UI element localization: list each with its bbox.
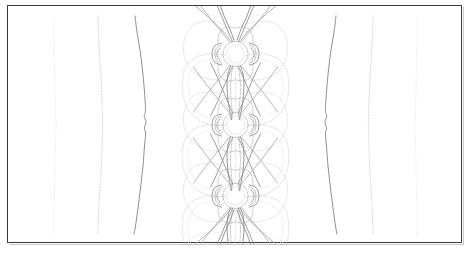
- figure-root: [0, 0, 474, 254]
- contour-line: [54, 16, 56, 234]
- contour-line: [239, 209, 261, 245]
- contour-line: [194, 137, 230, 183]
- frame-shadow-bottom: [9, 244, 464, 245]
- contour-line: [242, 138, 278, 184]
- contour-line: [98, 16, 103, 234]
- contour-line: [249, 130, 284, 190]
- contour-line: [227, 116, 245, 134]
- contour-line: [242, 67, 278, 113]
- central-bowtie-contour-group: [182, 6, 288, 244]
- contour-line: [242, 137, 278, 183]
- outer-contour-group: [54, 16, 417, 234]
- contour-line: [239, 6, 261, 42]
- contour-line: [188, 130, 223, 190]
- contour-line: [188, 59, 223, 119]
- contour-line: [194, 66, 230, 112]
- plot-frame: [7, 5, 462, 243]
- contour-line: [238, 137, 241, 184]
- contour-line: [227, 45, 245, 63]
- contour-line: [237, 210, 251, 244]
- contour-line: [249, 59, 284, 119]
- contour-line: [237, 6, 251, 40]
- contour-line: [230, 66, 233, 113]
- contour-line: [194, 208, 230, 244]
- contour-line: [134, 16, 146, 234]
- contour-line: [325, 16, 337, 234]
- contour-line: [221, 6, 235, 40]
- contour-line: [240, 208, 276, 244]
- contour-line: [194, 6, 230, 42]
- frame-shadow-right: [463, 7, 464, 245]
- contour-line: [368, 16, 373, 234]
- contour-plot-canvas: [8, 6, 463, 244]
- contour-line: [240, 6, 276, 42]
- contour-line: [242, 208, 278, 244]
- contour-line: [196, 208, 232, 244]
- contour-line: [238, 66, 241, 113]
- contour-line: [415, 16, 417, 234]
- contour-line: [194, 138, 230, 184]
- contour-line: [211, 209, 233, 245]
- contour-line: [221, 210, 235, 244]
- contour-line: [230, 137, 233, 184]
- contour-line: [211, 6, 233, 42]
- contour-line: [242, 66, 278, 112]
- contour-line: [227, 187, 245, 205]
- contour-line: [196, 6, 232, 42]
- contour-line: [242, 6, 278, 42]
- contour-line: [194, 67, 230, 113]
